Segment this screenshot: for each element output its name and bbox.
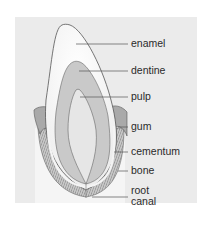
tooth-diagram: enamel dentine pulp gum cementum bone ro… bbox=[0, 0, 209, 226]
tooth-illustration bbox=[0, 0, 209, 226]
label-gum: gum bbox=[131, 121, 151, 132]
label-cementum: cementum bbox=[131, 146, 180, 157]
label-canal: canal bbox=[131, 196, 156, 207]
label-enamel: enamel bbox=[131, 38, 165, 49]
label-pulp: pulp bbox=[131, 91, 151, 102]
label-bone: bone bbox=[131, 165, 154, 176]
label-dentine: dentine bbox=[131, 65, 165, 76]
